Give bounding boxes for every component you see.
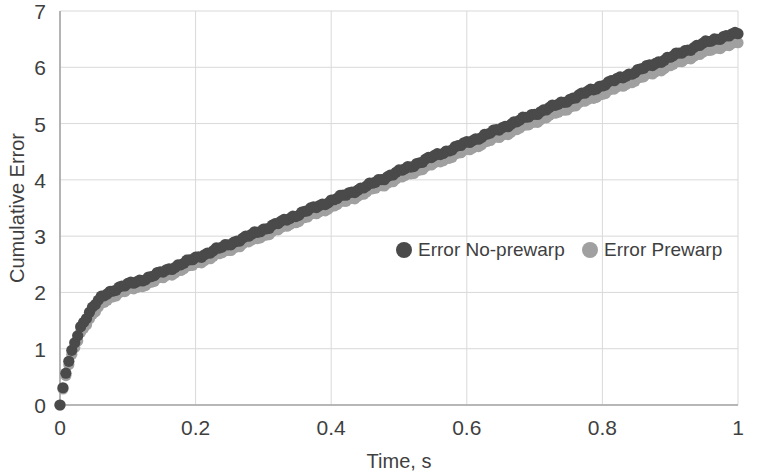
y-tick-label: 4 [34, 169, 46, 192]
data-point [732, 28, 743, 39]
data-point [63, 356, 74, 367]
x-tick-label: 1 [732, 416, 744, 439]
y-tick-label: 7 [34, 0, 46, 23]
y-tick-label: 6 [34, 56, 46, 79]
legend-marker-2 [582, 242, 598, 258]
data-point [57, 382, 68, 393]
legend-label-2: Error Prewarp [604, 239, 722, 260]
chart-plot: 01234567 00.20.40.60.81 Error No-prewarp… [0, 0, 760, 476]
y-tick-label: 0 [34, 394, 46, 417]
chart-container: 01234567 00.20.40.60.81 Error No-prewarp… [0, 0, 760, 476]
y-tick-label: 3 [34, 225, 46, 248]
x-tick-label: 0.2 [181, 416, 210, 439]
y-tick-label: 1 [34, 338, 46, 361]
x-axis-title: Time, s [367, 450, 432, 472]
x-tick-label: 0.4 [317, 416, 347, 439]
legend-marker-1 [396, 242, 412, 258]
x-tick-label: 0 [54, 416, 66, 439]
data-point [54, 399, 65, 410]
chart-legend: Error No-prewarpError Prewarp [396, 239, 722, 260]
y-tick-label: 2 [34, 281, 46, 304]
legend-label-1: Error No-prewarp [418, 239, 565, 260]
x-tick-label: 0.6 [452, 416, 481, 439]
data-point [60, 368, 71, 379]
y-tick-label: 5 [34, 113, 46, 136]
y-axis-title: Cumulative Error [6, 133, 28, 283]
x-tick-label: 0.8 [588, 416, 617, 439]
